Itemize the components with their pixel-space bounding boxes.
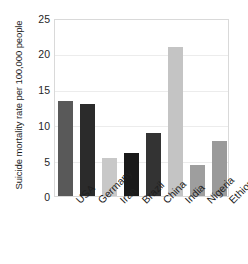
y-tick-label-25: 25 [4,14,50,24]
bar-usa[interactable] [58,101,73,196]
y-tick-label-5: 5 [4,157,50,167]
x-tick-label-ethiopia: Ethiopia [227,198,235,206]
bars-layer [55,20,228,196]
x-tick-label-china: China [161,198,169,206]
plot-area [54,19,229,197]
bar-chart: Suicide mortality rate per 100,000 peopl… [0,0,248,264]
x-tick-label-brazil: Brazil [140,198,148,206]
x-tick-label-iran: Iran [118,198,126,206]
y-tick-label-10: 10 [4,121,50,131]
y-tick-label-15: 15 [4,85,50,95]
bar-india[interactable] [168,47,183,196]
y-axis-tick-labels: 25 20 15 10 5 0 [0,0,50,264]
y-tick-label-0: 0 [4,192,50,202]
x-tick-label-usa: USA [74,198,82,206]
x-axis-tick-labels: USAGermanyIranBrazilChinaIndiaNigeriaEth… [54,198,234,264]
y-tick-label-20: 20 [4,49,50,59]
x-tick-label-germany: Germany [96,198,104,206]
x-tick-label-nigeria: Nigeria [205,198,213,206]
x-tick-label-india: India [183,198,191,206]
